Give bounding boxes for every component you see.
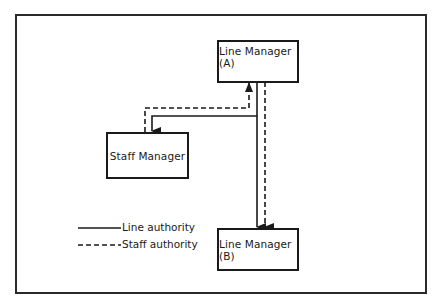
legend-label: Staff authority <box>122 238 198 250</box>
legend-line-authority: Line authority <box>122 221 195 233</box>
line-authority-a-to-staff <box>152 82 257 131</box>
node-line-manager-a: Line Manager (A) <box>217 40 299 83</box>
legend-staff-authority: Staff authority <box>122 238 198 250</box>
node-line-manager-b: Line Manager (B) <box>217 228 299 271</box>
staff-authority-staff-to-a <box>145 83 249 132</box>
legend-label: Line authority <box>122 221 195 233</box>
node-label: Staff Manager <box>110 150 185 162</box>
node-staff-manager: Staff Manager <box>106 132 189 179</box>
node-label: Line Manager (A) <box>219 45 297 69</box>
node-label: Line Manager (B) <box>219 238 297 262</box>
